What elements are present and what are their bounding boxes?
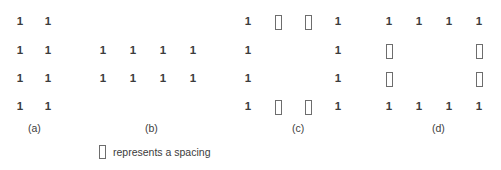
array-cell-empty (125, 13, 141, 31)
array-cell-element: 1 (471, 13, 487, 31)
array-cell-element: 1 (95, 70, 111, 88)
array-cell-spacing (471, 42, 487, 60)
group-label-d: (d) (432, 122, 445, 134)
array-cell-element: 1 (12, 13, 28, 31)
array-cell-spacing (270, 98, 286, 116)
array-cell-element: 1 (411, 13, 427, 31)
array-cell-element: 1 (95, 42, 111, 60)
group-label-b: (b) (145, 122, 158, 134)
spacing-box-icon (275, 15, 282, 30)
array-cell-spacing (300, 98, 316, 116)
array-cell-empty (125, 98, 141, 116)
array-cell-element: 1 (471, 98, 487, 116)
array-cell-empty (411, 42, 427, 60)
array-cell-empty (185, 13, 201, 31)
spacing-box-icon (99, 145, 106, 159)
array-cell-element: 1 (12, 42, 28, 60)
array-cell-empty (95, 13, 111, 31)
array-cell-element: 1 (411, 98, 427, 116)
spacing-box-icon (305, 100, 312, 115)
array-cell-spacing (381, 70, 397, 88)
spacing-box-icon (476, 44, 483, 59)
array-cell-element: 1 (185, 42, 201, 60)
array-cell-empty (95, 98, 111, 116)
array-cell-empty (411, 70, 427, 88)
array-cell-element: 1 (155, 70, 171, 88)
array-cell-empty (155, 98, 171, 116)
array-cell-empty (185, 98, 201, 116)
spacing-box-icon (275, 100, 282, 115)
array-cell-empty (270, 70, 286, 88)
array-cell-element: 1 (40, 42, 56, 60)
array-cell-element: 1 (330, 98, 346, 116)
array-cell-element: 1 (40, 70, 56, 88)
spacing-box-icon (305, 15, 312, 30)
array-cell-element: 1 (40, 13, 56, 31)
array-cell-empty (441, 70, 457, 88)
array-cell-element: 1 (240, 98, 256, 116)
array-cell-spacing (300, 13, 316, 31)
array-cell-element: 1 (155, 42, 171, 60)
array-cell-empty (300, 70, 316, 88)
array-cell-empty (155, 13, 171, 31)
legend-text: represents a spacing (113, 146, 210, 158)
array-cell-element: 1 (330, 13, 346, 31)
group-label-c: (c) (292, 122, 304, 134)
array-cell-element: 1 (125, 70, 141, 88)
array-cell-element: 1 (185, 70, 201, 88)
array-cell-empty (441, 42, 457, 60)
legend: represents a spacing (99, 145, 210, 159)
array-cell-empty (300, 42, 316, 60)
array-cell-element: 1 (441, 98, 457, 116)
array-cell-element: 1 (12, 98, 28, 116)
array-cell-spacing (471, 70, 487, 88)
array-cell-element: 1 (381, 13, 397, 31)
spacing-box-icon (386, 72, 393, 87)
array-cell-element: 1 (40, 98, 56, 116)
array-cell-element: 1 (240, 42, 256, 60)
group-label-a: (a) (28, 122, 41, 134)
array-cell-spacing (270, 13, 286, 31)
array-cell-spacing (381, 42, 397, 60)
spacing-box-icon (386, 44, 393, 59)
array-cell-element: 1 (330, 70, 346, 88)
array-cell-empty (270, 42, 286, 60)
array-cell-element: 1 (441, 13, 457, 31)
array-cell-element: 1 (240, 13, 256, 31)
array-cell-element: 1 (381, 98, 397, 116)
array-cell-element: 1 (330, 42, 346, 60)
antenna-array-figure: 11111111(a)11111111(b)11111111(c)1111111… (0, 0, 501, 170)
array-cell-element: 1 (12, 70, 28, 88)
array-cell-element: 1 (240, 70, 256, 88)
array-cell-element: 1 (125, 42, 141, 60)
spacing-box-icon (476, 72, 483, 87)
